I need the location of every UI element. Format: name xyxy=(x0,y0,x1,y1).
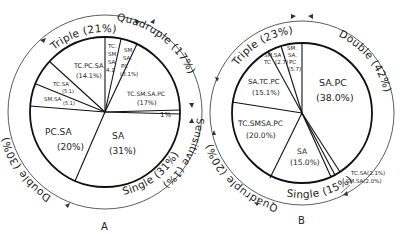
svg-text:4.1: 4.1 xyxy=(106,67,115,73)
label-pcsa: PC.SA xyxy=(45,127,72,137)
svg-text:(31%): (31%) xyxy=(109,146,136,156)
label-sa: SA xyxy=(112,131,125,141)
panel-title-a: A xyxy=(101,221,108,232)
panel-title-b: B xyxy=(298,215,305,226)
label-tcsmsapc-b: TC.SMSA.PC xyxy=(237,119,283,128)
svg-text:TC: TC xyxy=(263,59,271,65)
svg-text:PC: PC xyxy=(289,59,296,65)
svg-text:(15.1%): (15.1%) xyxy=(252,89,280,97)
svg-text:(5.7): (5.7) xyxy=(288,66,301,72)
svg-text:(20%): (20%) xyxy=(57,142,84,152)
label-tcsa-b: TC.SA(2.1%) xyxy=(350,170,385,176)
label-smsa: SM.SA xyxy=(44,96,62,102)
svg-text:(3.1%): (3.1%) xyxy=(120,71,138,77)
svg-text:(20.0%): (20.0%) xyxy=(246,131,276,140)
svg-text:SM.: SM. xyxy=(108,51,118,57)
label-sensitive: 1% xyxy=(160,111,171,119)
svg-text:PC: PC xyxy=(121,63,128,69)
pie-chart-b: SM.SA TC (2.7) SM. SA. PC (5.7) SA.TC.PC… xyxy=(202,14,394,226)
label-smsapc: SM. xyxy=(124,47,134,53)
label-tcsa: TC.SA xyxy=(52,81,69,87)
svg-text:(17%): (17%) xyxy=(137,99,157,107)
label-tcsmsapc: TC.SM.SA.PC xyxy=(126,90,165,97)
svg-text:SA.: SA. xyxy=(123,55,132,61)
pie-chart-a: TC. SM. SA 4.1 SM. SA. PC (3.1%) TC.PC.S… xyxy=(0,11,206,232)
svg-text:(38.0%): (38.0%) xyxy=(316,92,354,103)
label-smsatc: SM.SA xyxy=(264,52,282,58)
svg-text:(14.1%): (14.1%) xyxy=(76,72,102,80)
svg-text:SA: SA xyxy=(108,59,116,65)
svg-text:SA.: SA. xyxy=(288,52,297,58)
label-smsapc-b: SM. xyxy=(287,45,297,51)
svg-text:(5.1): (5.1) xyxy=(63,100,75,106)
label-sapc: SA.PC xyxy=(319,77,347,88)
label-tcpcsa: TC.PC.SA xyxy=(73,62,104,70)
figure: TC. SM. SA 4.1 SM. SA. PC (3.1%) TC.PC.S… xyxy=(0,0,402,234)
label-satcpc: SA.TC.PC xyxy=(248,78,280,86)
label-tcsmsa: TC. xyxy=(107,43,117,49)
svg-text:(15.0%): (15.0%) xyxy=(290,158,320,167)
svg-text:(5.1): (5.1) xyxy=(62,88,74,94)
svg-text:(2.7): (2.7) xyxy=(275,59,288,65)
label-sa-b: SA xyxy=(297,147,308,156)
